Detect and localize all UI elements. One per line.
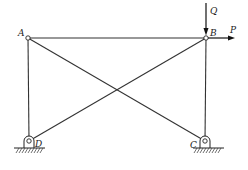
force-q-arrow xyxy=(204,3,209,36)
member-bc xyxy=(205,38,206,141)
label-c: C xyxy=(190,140,197,150)
ground-hatch-c xyxy=(194,148,221,153)
truss-diagram: A B C D Q P xyxy=(0,0,248,170)
pin-b xyxy=(204,36,208,40)
pin-c xyxy=(203,139,207,143)
label-d: D xyxy=(34,139,42,149)
pin-d xyxy=(27,139,31,143)
diagram-canvas: A B C D Q P xyxy=(0,0,248,170)
member-ad xyxy=(28,38,29,141)
pin-a xyxy=(26,36,30,40)
label-b: B xyxy=(209,28,217,38)
support-c xyxy=(193,136,224,153)
label-q: Q xyxy=(210,6,218,16)
label-a: A xyxy=(17,28,25,38)
label-p: P xyxy=(229,25,237,35)
